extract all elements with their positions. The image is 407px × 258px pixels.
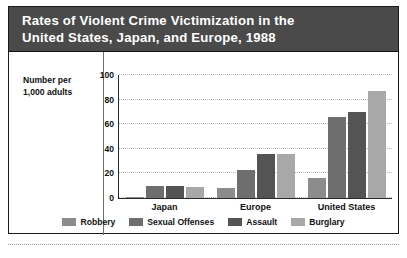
bar-group: United States [308, 75, 386, 198]
bar [277, 154, 295, 198]
bar-group: Europe [217, 75, 295, 198]
legend-item: Assault [228, 217, 277, 227]
legend-label: Burglary [309, 217, 344, 227]
bar [368, 91, 386, 198]
page-title: Rates of Violent Crime Victimization in … [22, 12, 382, 46]
legend-label: Robbery [80, 217, 115, 227]
legend-label: Sexual Offenses [147, 217, 214, 227]
legend-label: Assault [246, 217, 277, 227]
y-axis-tick-label: 80 [104, 95, 114, 105]
bottom-rule [8, 244, 399, 245]
legend-item: Burglary [291, 217, 344, 227]
bar [217, 188, 235, 198]
bar [166, 186, 184, 198]
plot-inner: 020406080100 JapanEuropeUnited States [118, 75, 392, 199]
legend-swatch [291, 218, 305, 226]
bar [146, 186, 164, 198]
bar [126, 197, 144, 198]
bar-group: Japan [126, 75, 204, 198]
y-axis-tick-label: 40 [104, 144, 114, 154]
legend-swatch [228, 218, 242, 226]
legend-item: Robbery [62, 217, 115, 227]
chart-figure: Rates of Violent Crime Victimization in … [8, 6, 399, 234]
y-axis-tick-label: 60 [104, 119, 114, 129]
plot-area: 020406080100 JapanEuropeUnited States [109, 75, 392, 199]
bar [186, 187, 204, 198]
legend-swatch [62, 218, 76, 226]
y-axis-title: Number per 1,000 adults [23, 75, 103, 98]
title-bar: Rates of Violent Crime Victimization in … [9, 7, 398, 52]
bar [308, 178, 326, 198]
x-axis-category-label: United States [318, 202, 376, 212]
legend-swatch [129, 218, 143, 226]
x-axis-category-label: Japan [151, 202, 177, 212]
x-axis-category-label: Europe [240, 202, 271, 212]
bar-groups: JapanEuropeUnited States [119, 75, 392, 198]
y-axis-tick-label: 0 [109, 193, 114, 203]
legend-item: Sexual Offenses [129, 217, 214, 227]
bar [348, 112, 366, 198]
y-axis-tick-label: 100 [100, 70, 114, 80]
bar [328, 117, 346, 198]
bar [257, 154, 275, 198]
bar [237, 170, 255, 198]
legend: RobberySexual OffensesAssaultBurglary [9, 217, 398, 227]
y-axis-tick-label: 20 [104, 168, 114, 178]
